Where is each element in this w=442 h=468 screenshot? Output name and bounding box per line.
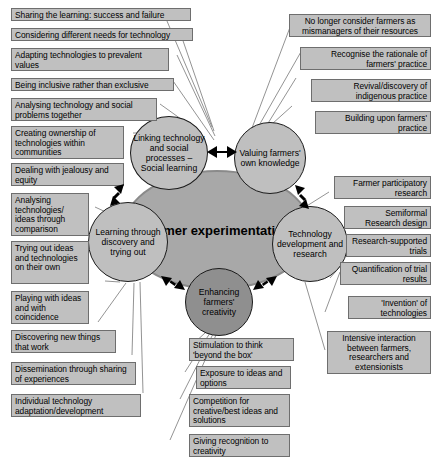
label-box-techdev-4[interactable]: 'Invention' of technologies bbox=[348, 296, 431, 319]
label-box-enhancing-3[interactable]: Giving recognition to creativity bbox=[189, 434, 290, 457]
label-box-valuing-3[interactable]: Building upon farmers' practice bbox=[315, 111, 431, 134]
label-text: Recognise the rationale of farmers' prac… bbox=[331, 49, 427, 69]
label-box-techdev-2[interactable]: Research-supported trials bbox=[346, 234, 431, 257]
node-linking-technology-label: Linking technology and social processes … bbox=[131, 133, 207, 174]
label-box-learning-1[interactable]: Trying out ideas and technologies on the… bbox=[11, 241, 89, 284]
label-text: Dealing with jealousy and equity bbox=[15, 165, 109, 185]
label-box-learning-2[interactable]: Playing with ideas and with coincidence bbox=[11, 291, 89, 324]
label-box-valuing-0[interactable]: No longer consider farmers as mismanager… bbox=[289, 14, 431, 37]
label-text: Playing with ideas and with coincidence bbox=[15, 293, 81, 322]
label-text: 'Invention' of technologies bbox=[381, 298, 427, 318]
label-box-enhancing-2[interactable]: Competition for creative/best ideas and … bbox=[189, 394, 290, 427]
label-text: Stimulation to think 'beyond the box' bbox=[193, 340, 263, 360]
label-text: Quantification of trial results bbox=[352, 264, 427, 284]
label-text: Sharing the learning: success and failur… bbox=[15, 10, 164, 20]
label-box-techdev-0[interactable]: Farmer participatory research bbox=[334, 176, 431, 199]
label-box-linking-2[interactable]: Adapting technologies to prevalent value… bbox=[11, 48, 169, 71]
label-text: Farmer participatory research bbox=[353, 178, 427, 198]
arrow-valuing-techdev bbox=[290, 182, 314, 212]
label-text: Giving recognition to creativity bbox=[193, 436, 268, 456]
label-box-techdev-5[interactable]: Intensive interaction between farmers, r… bbox=[327, 331, 431, 374]
label-text: Revival/discovery of indigenous practice bbox=[354, 81, 427, 101]
label-box-techdev-1[interactable]: Semiformal Research design bbox=[344, 206, 431, 229]
label-box-enhancing-1[interactable]: Exposure to ideas and options bbox=[196, 366, 291, 389]
node-enhancing-creativity[interactable]: Enhancing farmers' creativity bbox=[185, 268, 253, 336]
label-text: Adapting technologies to prevalent value… bbox=[15, 50, 142, 70]
label-text: Individual technology adaptation/develop… bbox=[15, 396, 103, 416]
label-text: Analysing technology and social problems… bbox=[15, 100, 133, 120]
label-box-linking-5[interactable]: Creating ownership of technologies withi… bbox=[11, 126, 124, 159]
node-technology-development-research[interactable]: Technology development and research bbox=[272, 206, 348, 282]
node-learning-through-discovery[interactable]: Learning through discovery and trying ou… bbox=[88, 202, 168, 282]
diagram-canvas: Farmer experimentation Linking technolog… bbox=[0, 0, 442, 468]
label-text: Analysing technologies/ ideas through co… bbox=[15, 195, 65, 234]
label-text: Intensive interaction between farmers, r… bbox=[342, 333, 415, 372]
label-box-techdev-3[interactable]: Quantification of trial results bbox=[340, 262, 431, 285]
arrow-linking-learning bbox=[106, 181, 128, 209]
label-box-learning-4[interactable]: Dissemination through sharing of experie… bbox=[11, 362, 136, 385]
label-box-linking-1[interactable]: Considering different needs for technolo… bbox=[11, 28, 193, 41]
label-box-enhancing-0[interactable]: Stimulation to think 'beyond the box' bbox=[189, 338, 294, 361]
label-text: Research-supported trials bbox=[352, 236, 427, 256]
label-text: No longer consider farmers as mismanager… bbox=[302, 16, 418, 36]
label-text: Exposure to ideas and options bbox=[200, 368, 282, 388]
label-box-linking-4[interactable]: Analysing technology and social problems… bbox=[11, 98, 157, 121]
label-text: Dissemination through sharing of experie… bbox=[15, 364, 127, 384]
label-text: Considering different needs for technolo… bbox=[15, 30, 170, 40]
node-learning-through-discovery-label: Learning through discovery and trying ou… bbox=[89, 227, 167, 258]
node-enhancing-creativity-label: Enhancing farmers' creativity bbox=[186, 287, 252, 318]
label-text: Discovering new things that work bbox=[15, 332, 100, 352]
arrow-linking-valuing bbox=[205, 143, 239, 161]
node-linking-technology[interactable]: Linking technology and social processes … bbox=[130, 116, 208, 190]
label-box-valuing-2[interactable]: Revival/discovery of indigenous practice bbox=[311, 79, 431, 102]
label-text: Competition for creative/best ideas and … bbox=[193, 396, 278, 425]
label-box-learning-0[interactable]: Analysing technologies/ ideas through co… bbox=[11, 193, 89, 236]
arrow-learning-enhancing bbox=[158, 272, 188, 294]
node-technology-development-research-label: Technology development and research bbox=[273, 229, 347, 260]
label-text: Trying out ideas and technologies on the… bbox=[15, 243, 78, 272]
arrow-enhancing-techdev bbox=[250, 272, 280, 294]
label-text: Being inclusive rather than exclusive bbox=[15, 80, 149, 90]
label-text: Creating ownership of technologies withi… bbox=[15, 128, 95, 157]
label-box-learning-5[interactable]: Individual technology adaptation/develop… bbox=[11, 394, 141, 417]
label-text: Semiformal Research design bbox=[365, 208, 427, 228]
node-valuing-farmers-knowledge-label: Valuing farmers' own knowledge bbox=[235, 148, 305, 168]
label-box-valuing-1[interactable]: Recognise the rationale of farmers' prac… bbox=[300, 47, 431, 70]
label-box-linking-3[interactable]: Being inclusive rather than exclusive bbox=[11, 78, 174, 91]
label-box-learning-3[interactable]: Discovering new things that work bbox=[11, 330, 116, 353]
label-box-linking-0[interactable]: Sharing the learning: success and failur… bbox=[11, 8, 191, 21]
label-text: Building upon farmers' practice bbox=[345, 113, 427, 133]
